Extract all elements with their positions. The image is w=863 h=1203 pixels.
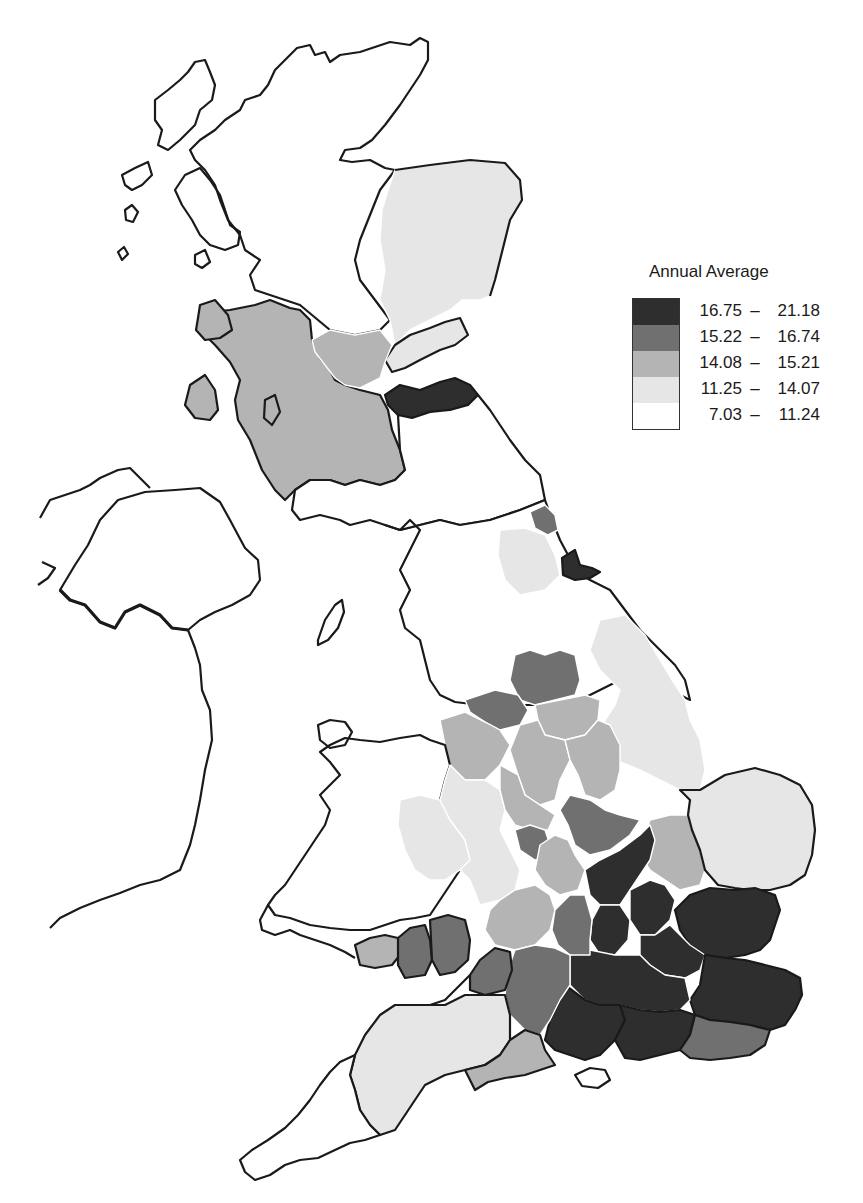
legend: Annual Average 16.75 – 21.18 15.22 – 16.… (632, 262, 852, 430)
region-west-yorkshire (510, 650, 580, 705)
legend-low: 11.25 (680, 379, 742, 399)
legend-high: 15.21 (768, 353, 820, 373)
island-islay-jura (185, 375, 218, 420)
legend-swatches (632, 298, 680, 430)
legend-high: 14.07 (768, 379, 820, 399)
legend-labels: 16.75 – 21.18 15.22 – 16.74 14.08 – 15.2… (680, 298, 820, 430)
legend-separator: – (742, 379, 768, 399)
legend-separator: – (742, 405, 768, 425)
region-oxfordshire (552, 895, 592, 955)
legend-separator: – (742, 353, 768, 373)
legend-low: 15.22 (680, 327, 742, 347)
region-west-glamorgan (355, 935, 400, 968)
legend-low: 16.75 (680, 301, 742, 321)
legend-low: 14.08 (680, 353, 742, 373)
uk-choropleth-map (0, 0, 863, 1203)
legend-swatch-light (633, 377, 679, 403)
legend-separator: – (742, 301, 768, 321)
legend-low: 7.03 (680, 405, 742, 425)
legend-row: 7.03 – 11.24 (680, 402, 820, 428)
island-isle-of-wight (575, 1068, 610, 1088)
legend-high: 16.74 (768, 327, 820, 347)
legend-row: 11.25 – 14.07 (680, 376, 820, 402)
region-avon (470, 948, 512, 995)
island-small-1 (118, 247, 128, 260)
region-gwent (430, 915, 470, 975)
region-mid-glamorgan (398, 925, 432, 978)
legend-swatch-darkest (633, 299, 679, 325)
legend-row: 15.22 – 16.74 (680, 324, 820, 350)
island-isle-of-man (318, 600, 344, 645)
legend-separator: – (742, 327, 768, 347)
coast-republic-of-ireland (38, 468, 212, 928)
island-mull (196, 300, 232, 340)
region-grampian (380, 160, 522, 345)
legend-row: 14.08 – 15.21 (680, 350, 820, 376)
region-cleveland (562, 550, 600, 580)
legend-high: 11.24 (768, 405, 820, 425)
island-rum (195, 250, 210, 268)
region-buckinghamshire (590, 905, 630, 955)
legend-swatch-white (633, 403, 679, 429)
island-barra (125, 205, 138, 222)
legend-high: 21.18 (768, 301, 820, 321)
legend-row: 16.75 – 21.18 (680, 298, 820, 324)
legend-swatch-dark (633, 325, 679, 351)
island-uist (122, 162, 152, 190)
border-ni-roi[interactable] (60, 590, 188, 630)
legend-swatch-medium (633, 351, 679, 377)
legend-title: Annual Average (649, 262, 852, 282)
